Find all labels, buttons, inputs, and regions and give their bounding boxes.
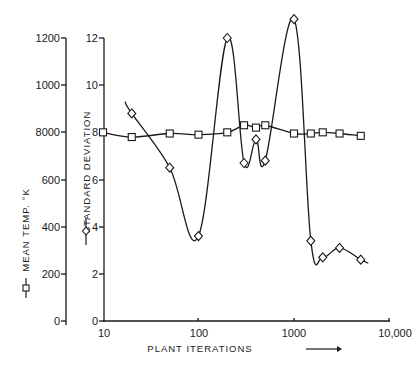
square-marker-icon <box>241 122 248 129</box>
x-axis <box>103 318 390 321</box>
square-marker-icon <box>23 278 29 298</box>
x-tick-labels: 10 100 1000 10,000 <box>98 327 412 339</box>
left-y-axis <box>61 38 66 325</box>
right-tick-0: 0 <box>92 315 98 327</box>
x-axis-arrow-icon <box>306 346 342 352</box>
left-axis-title: MEAN TEMP. °K <box>20 188 31 272</box>
right-tick-4: 4 <box>92 221 98 233</box>
square-marker-icon <box>166 130 173 137</box>
left-tick-800: 8000 <box>36 126 60 138</box>
left-tick-1200: 1200 <box>36 32 60 44</box>
square-marker-icon <box>262 122 269 129</box>
series-layer <box>100 15 369 265</box>
chart: 0 200 400 600 8000 1000 1200 0 2 4 6 8 1… <box>0 0 417 370</box>
diamond-marker-icon <box>261 156 269 165</box>
x-tick-100: 100 <box>190 327 208 339</box>
diamond-marker-icon <box>252 135 260 144</box>
square-marker-icon <box>357 132 364 139</box>
square-marker-icon <box>336 130 343 137</box>
right-axis-legend: STANDARD DEVIATION <box>81 111 92 245</box>
diamond-marker-icon <box>223 34 231 43</box>
diamond-marker-icon <box>195 232 203 241</box>
right-y-axis <box>99 38 104 322</box>
right-tick-10: 10 <box>86 79 98 91</box>
right-tick-6: 6 <box>92 174 98 186</box>
left-tick-1000: 1000 <box>36 79 60 91</box>
square-marker-icon <box>291 130 298 137</box>
diamond-marker-icon <box>336 243 344 252</box>
diamond-marker-icon <box>357 255 365 264</box>
x-tick-1000: 1000 <box>282 327 306 339</box>
std-dev-series <box>125 15 368 265</box>
left-tick-400: 400 <box>42 221 60 233</box>
square-marker-icon <box>195 131 202 138</box>
series-line <box>125 18 368 265</box>
right-axis-title: STANDARD DEVIATION <box>81 111 92 234</box>
left-tick-600: 600 <box>42 174 60 186</box>
left-tick-0: 0 <box>54 315 60 327</box>
left-y-tick-labels: 0 200 400 600 8000 1000 1200 <box>36 32 60 327</box>
square-marker-icon <box>307 130 314 137</box>
diamond-marker-icon <box>290 15 298 24</box>
x-tick-10: 10 <box>98 327 110 339</box>
right-tick-2: 2 <box>92 268 98 280</box>
square-marker-icon <box>319 129 326 136</box>
left-axis-legend: MEAN TEMP. °K <box>20 188 31 298</box>
x-tick-10000: 10,000 <box>378 327 412 339</box>
right-tick-12: 12 <box>86 32 98 44</box>
diamond-marker-icon <box>307 236 315 245</box>
right-tick-8: 8 <box>92 126 98 138</box>
x-axis-title: PLANT ITERATIONS <box>147 343 252 354</box>
left-tick-200: 200 <box>42 268 60 280</box>
square-marker-icon <box>224 129 231 136</box>
square-marker-icon <box>100 129 107 136</box>
diamond-marker-icon <box>240 158 248 167</box>
diamond-marker-icon <box>166 163 174 172</box>
square-marker-icon <box>128 134 135 141</box>
square-marker-icon <box>252 124 259 131</box>
